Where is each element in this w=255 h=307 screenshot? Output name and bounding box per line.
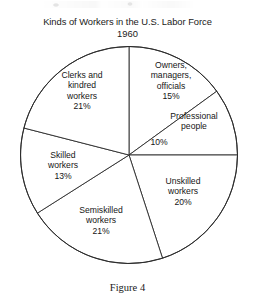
slice-label-skilled-line1: Skilled	[50, 150, 75, 160]
slice-value-professional-wrap: 10%	[146, 137, 172, 147]
slice-label-clerks-line1: Clerks and	[61, 70, 102, 80]
slice-value-clerks: 21%	[46, 101, 118, 111]
slice-label-unskilled-line1: Unskilled	[166, 176, 201, 186]
slice-label-owners: Owners, managers, officials 15%	[140, 60, 202, 102]
slice-label-semiskilled: Semiskilled workers 21%	[62, 205, 140, 236]
slice-label-clerks-line2: kindred	[68, 80, 96, 90]
slice-label-professional-line2: people	[181, 121, 207, 131]
slice-label-semiskilled-line2: workers	[86, 215, 116, 225]
slice-value-semiskilled: 21%	[62, 226, 140, 236]
slice-label-owners-line2: managers,	[151, 70, 192, 80]
slice-label-owners-line3: officials	[157, 81, 186, 91]
slice-label-clerks: Clerks and kindred workers 21%	[46, 70, 118, 112]
slice-value-professional: 10%	[150, 137, 167, 147]
slice-label-professional-line1: Professional	[170, 111, 217, 121]
slice-label-skilled-line2: workers	[48, 160, 78, 170]
slice-value-unskilled: 20%	[152, 197, 214, 207]
slice-label-skilled: Skilled workers 13%	[32, 150, 94, 181]
slice-value-skilled: 13%	[32, 171, 94, 181]
slice-label-semiskilled-line1: Semiskilled	[79, 205, 122, 215]
slice-label-professional: Professional people	[158, 111, 230, 132]
slice-label-unskilled: Unskilled workers 20%	[152, 176, 214, 207]
slice-label-owners-line1: Owners,	[155, 60, 187, 70]
slice-label-clerks-line3: workers	[67, 91, 97, 101]
slice-value-owners: 15%	[140, 91, 202, 101]
figure-caption: Figure 4	[0, 282, 255, 293]
pie-chart-figure: Clerks and kindred workers 21% Owners, m…	[0, 0, 255, 307]
slice-label-unskilled-line2: workers	[168, 186, 198, 196]
